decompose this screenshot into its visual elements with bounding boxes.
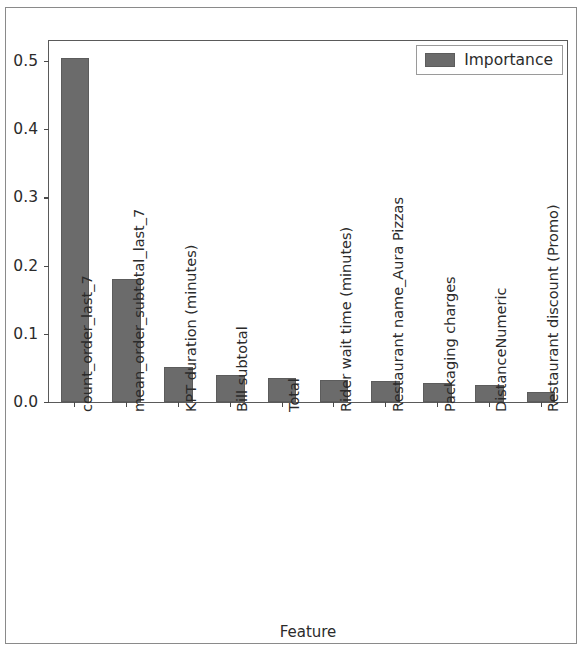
x-axis-tick-label: Restaurant discount (Promo) [546,204,560,412]
y-axis-tick: 0.3 [1,197,49,198]
plot-axes: 0.00.10.20.30.40.5 Importance [48,40,568,403]
x-axis-tick-label: KPT duration (minutes) [184,245,198,412]
y-axis-tick-label: 0.5 [13,51,38,71]
x-axis-tick-label: Bill subtotal [235,326,249,412]
y-axis-tick-mark [44,402,49,403]
y-axis-tick: 0.1 [1,334,49,335]
y-axis-tick-mark [44,334,49,335]
x-axis-tick-label: DistanceNumeric [494,288,508,412]
x-axis-tick-mark [178,402,179,407]
legend-label-importance: Importance [464,51,553,69]
y-axis-tick-label: 0.3 [13,187,38,207]
x-axis-tick-label: count_order_last_7 [80,275,94,412]
x-axis-tick-mark [385,402,386,407]
figure: 0.00.10.20.30.40.5 Importance Feature co… [0,0,583,651]
x-axis-tick-mark [489,402,490,407]
y-axis-tick-label: 0.4 [13,119,38,139]
x-axis-tick-label: Packaging charges [443,276,457,412]
x-axis-tick-mark [437,402,438,407]
y-axis-tick-mark [44,61,49,62]
y-axis-tick-mark [44,197,49,198]
x-axis-tick-mark [230,402,231,407]
y-axis-tick-label: 0.2 [13,256,38,276]
y-axis-tick: 0.5 [1,61,49,62]
x-axis-label: Feature [48,623,568,641]
x-axis-tick-mark [126,402,127,407]
legend-swatch-importance [425,53,455,67]
y-axis-tick-label: 0.1 [13,324,38,344]
x-axis-tick-label: Restaurant name_Aura Pizzas [391,197,405,412]
x-axis-tick-mark [541,402,542,407]
y-axis-tick-label: 0.0 [13,392,38,412]
x-axis-tick-label: Rider wait time (minutes) [339,227,353,412]
y-axis-tick: 0.0 [1,402,49,403]
y-axis-tick: 0.4 [1,129,49,130]
y-axis-tick-mark [44,129,49,130]
x-axis-tick-mark [333,402,334,407]
chart-legend: Importance [416,45,563,75]
x-axis-tick-mark [74,402,75,407]
x-axis-tick-mark [282,402,283,407]
y-axis-tick: 0.2 [1,266,49,267]
x-axis-tick-label: Total [287,378,301,412]
plot-area: 0.00.10.20.30.40.5 [49,41,567,402]
y-axis-tick-mark [44,266,49,267]
x-axis-tick-label: mean_order_subtotal_last_7 [132,209,146,412]
